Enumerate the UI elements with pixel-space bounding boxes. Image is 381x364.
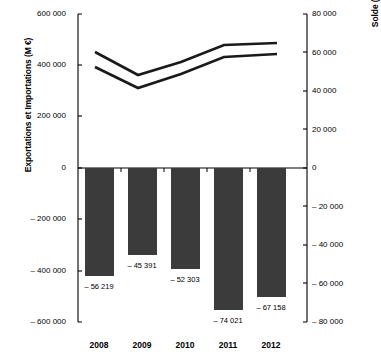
bar-label-2011: – 74 021 [200, 316, 256, 325]
bar-2008 [85, 168, 114, 276]
bar-2011 [214, 168, 243, 310]
bar-label-2010: – 52 303 [157, 275, 213, 284]
bar-label-2008: – 56 219 [71, 282, 127, 291]
chart-plot-area [0, 0, 381, 364]
x-label-2009: 2009 [122, 340, 162, 350]
x-label-2012: 2012 [251, 340, 291, 350]
x-label-2010: 2010 [165, 340, 205, 350]
bar-label-2009: – 45 391 [114, 261, 170, 270]
bar-2009 [128, 168, 157, 255]
bar-2010 [171, 168, 200, 269]
x-label-2008: 2008 [79, 340, 119, 350]
chart-container: Exportations et Importations (M €) Solde… [0, 0, 381, 364]
x-label-2011: 2011 [208, 340, 248, 350]
bar-2012 [257, 168, 286, 297]
bar-label-2012: – 67 158 [243, 303, 299, 312]
line-importations [95, 43, 277, 75]
